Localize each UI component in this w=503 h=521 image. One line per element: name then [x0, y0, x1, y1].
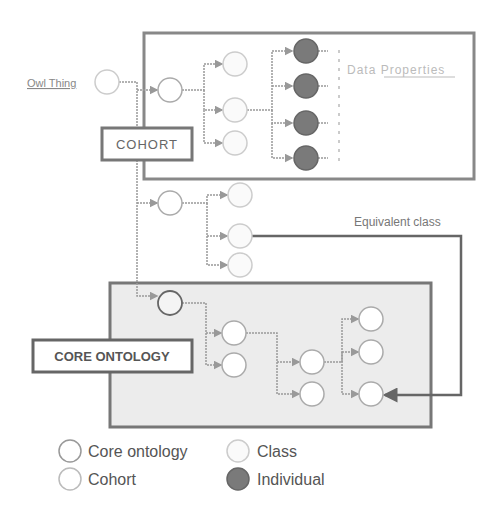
individual-node [294, 39, 318, 63]
core-ontology-label: CORE ONTOLOGY [54, 349, 170, 364]
core-node [222, 353, 246, 377]
legend-label: Core ontology [88, 443, 188, 460]
legend-class-icon [227, 440, 249, 462]
legend-cohort-icon [59, 468, 81, 490]
legend-core-ontology-icon [59, 440, 81, 462]
core-node [300, 382, 324, 406]
class-node [228, 183, 252, 207]
individual-node [294, 146, 318, 170]
class-node [228, 224, 252, 248]
class-node [223, 52, 247, 76]
legend-individual-icon [227, 468, 249, 490]
cohort-label: COHORT [116, 137, 178, 152]
individual-node [294, 74, 318, 98]
legend-label: Cohort [88, 471, 137, 488]
cohort-node [158, 78, 182, 102]
class-node [228, 253, 252, 277]
owl-thing-node [95, 70, 119, 94]
equivalent-class-label: Equivalent class [354, 215, 441, 229]
core-node [300, 350, 324, 374]
class-node [223, 98, 247, 122]
core-node [222, 321, 246, 345]
core-root-node [158, 291, 182, 315]
ontology-diagram: COHORT CORE ONTOLOGY Owl Thing Data Prop… [0, 0, 503, 521]
core-node [359, 340, 383, 364]
legend-label: Class [257, 443, 297, 460]
legend-label: Individual [257, 471, 325, 488]
class-node [223, 131, 247, 155]
data-properties-label: Data Properties [347, 63, 445, 77]
edge-trunk [119, 82, 157, 296]
legend: Core ontology Class Cohort Individual [59, 440, 325, 490]
owl-thing-label: Owl Thing [27, 77, 76, 89]
cohort-node [158, 191, 182, 215]
core-node [359, 382, 383, 406]
individual-node [294, 111, 318, 135]
core-node [359, 307, 383, 331]
